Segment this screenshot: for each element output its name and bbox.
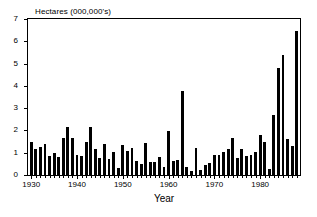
bar [126,151,129,176]
y-tick-label: 7 [14,14,18,23]
plot-area [28,19,300,175]
y-tick-label: 0 [14,170,18,179]
x-tick-minor [59,175,60,178]
x-tick-minor [283,175,284,178]
bar [66,127,69,175]
y-tick-label: 1 [14,148,18,157]
y-tick: 3 [24,108,28,109]
x-tick-minor [127,175,128,178]
x-tick-label: 1960 [160,180,178,189]
y-tick-mark [24,153,28,154]
x-tick-minor [233,175,234,178]
x-tick-minor [86,175,87,178]
x-tick-minor [246,175,247,178]
y-tick-label: 6 [14,36,18,45]
bar [131,148,134,175]
y-tick-label: 4 [14,81,18,90]
x-tick-minor [155,175,156,178]
bar [85,142,88,175]
bar [263,142,266,175]
bar [231,138,234,175]
bar [121,145,124,175]
bar [80,156,83,175]
x-tick-minor [278,175,279,178]
bar [103,144,106,175]
bar [172,161,175,175]
y-tick: 5 [24,64,28,65]
bar [181,91,184,175]
bar [277,68,280,175]
x-tick-major [31,175,32,179]
x-tick-minor [219,175,220,178]
y-tick-mark [24,108,28,109]
bar [53,153,56,175]
x-tick-minor [242,175,243,178]
bar [272,115,275,175]
bar [204,165,207,175]
x-axis-title: Year [27,193,301,205]
y-tick-mark [24,86,28,87]
x-tick-label: 1940 [68,180,86,189]
x-tick-minor [228,175,229,178]
x-tick-minor [72,175,73,178]
y-tick-label: 2 [14,125,18,134]
x-tick-minor [109,175,110,178]
x-tick-major [260,175,261,179]
bar [108,159,111,175]
x-tick-minor [182,175,183,178]
x-tick-minor [146,175,147,178]
x-tick-minor [137,175,138,178]
x-tick-minor [68,175,69,178]
bar [48,156,51,175]
x-tick-minor [150,175,151,178]
x-tick-minor [45,175,46,178]
x-tick-minor [256,175,257,178]
x-tick-minor [82,175,83,178]
bar [89,127,92,175]
bar [62,138,65,175]
x-tick-minor [196,175,197,178]
bar [144,143,147,175]
x-tick-minor [237,175,238,178]
bar [282,55,285,175]
x-tick-minor [297,175,298,178]
y-axis-unit-caption: Hectares (000,000's) [35,7,111,17]
y-tick: 6 [24,41,28,42]
bar [208,163,211,175]
x-tick-minor [178,175,179,178]
x-tick-minor [201,175,202,178]
x-tick-minor [205,175,206,178]
x-tick-minor [159,175,160,178]
y-tick-label: 3 [14,103,18,112]
bar [94,149,97,175]
bar [227,149,230,175]
x-tick-major [123,175,124,179]
x-tick-major [77,175,78,179]
bar [176,160,179,175]
x-tick-major [169,175,170,179]
bar [153,162,156,175]
x-tick-minor [288,175,289,178]
x-tick-minor [50,175,51,178]
x-tick-minor [269,175,270,178]
y-tick-label: 5 [14,59,18,68]
bar-chart-figure: Hectares (000,000's) 0123456719301940195… [0,0,317,217]
bar [163,167,166,175]
y-tick-mark [24,130,28,131]
y-tick: 2 [24,130,28,131]
x-tick-minor [118,175,119,178]
x-tick-label: 1980 [251,180,269,189]
x-tick-minor [187,175,188,178]
bar [286,139,289,175]
bar [71,138,74,175]
x-tick-minor [251,175,252,178]
bar [140,164,143,175]
y-tick-mark [24,64,28,65]
bar [34,149,37,175]
bar [39,147,42,175]
bar [195,148,198,175]
bar [213,155,216,175]
bar [259,135,262,175]
y-tick-mark [24,41,28,42]
x-tick-minor [54,175,55,178]
